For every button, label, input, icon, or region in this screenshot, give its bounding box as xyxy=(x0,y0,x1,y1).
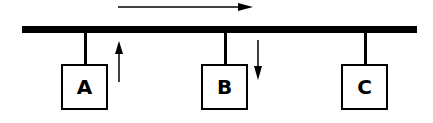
arrows-layer xyxy=(0,0,433,123)
down-arrow-icon xyxy=(254,40,262,80)
flow-right-arrow-icon xyxy=(118,3,253,11)
up-arrow-icon xyxy=(115,41,123,82)
bus-diagram: A B C xyxy=(0,0,433,123)
